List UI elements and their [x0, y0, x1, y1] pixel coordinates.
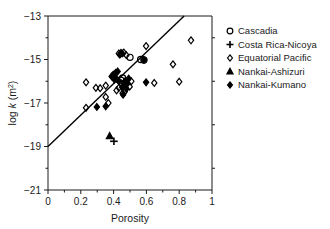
y-tick-label: −13 — [24, 11, 41, 22]
legend-label-text: Nankai-Ashizuri — [238, 66, 305, 77]
x-tick-label: 0.4 — [107, 196, 121, 207]
x-tick-label: 0.6 — [139, 196, 153, 207]
ylabel-prefix: log — [6, 108, 18, 125]
scatter-plot-figure: 00.20.40.60.81 −13−15−17−19−21 Porosity … — [0, 0, 330, 229]
x-tick-label: 0.8 — [172, 196, 186, 207]
legend-label-text: Costa Rica-Nicoya — [238, 39, 317, 50]
x-axis-title-text: Porosity — [111, 212, 150, 224]
legend-item-nankai-ashizuri[interactable]: Nankai-Ashizuri — [227, 66, 305, 77]
y-tick-label: −19 — [24, 141, 41, 152]
x-axis-label: Porosity — [111, 212, 150, 224]
y-tick-label: −15 — [24, 54, 41, 65]
ylabel-unit: (m — [6, 88, 18, 103]
legend-label-text: Cascadia — [238, 25, 278, 36]
y-tick-label: −21 — [24, 185, 41, 196]
legend-label-text: Nankai-Kumano — [238, 79, 306, 90]
y-tick-label: −17 — [24, 98, 41, 109]
legend-item-costa-rica-nicoya[interactable]: Costa Rica-Nicoya — [227, 39, 318, 50]
x-tick-label: 0.2 — [74, 196, 88, 207]
legend-item-equatorial-pacific[interactable]: Equatorial Pacific — [228, 52, 312, 63]
legend-item-nankai-kumano[interactable]: Nankai-Kumano — [228, 79, 307, 90]
legend-label-text: Equatorial Pacific — [238, 52, 312, 63]
ylabel-close: ) — [6, 81, 18, 85]
chart-canvas: 00.20.40.60.81 −13−15−17−19−21 Porosity … — [0, 0, 330, 229]
x-tick-label: 0 — [45, 196, 51, 207]
x-tick-label: 1 — [209, 196, 215, 207]
